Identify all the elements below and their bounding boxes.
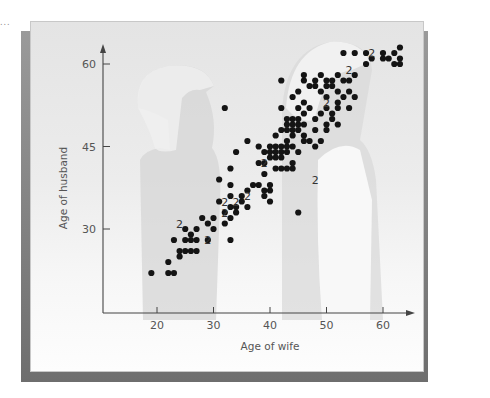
data-point — [171, 237, 177, 243]
data-point — [312, 83, 318, 89]
data-point — [284, 121, 290, 127]
data-point — [188, 231, 194, 237]
data-point — [306, 105, 312, 111]
data-point — [171, 270, 177, 276]
data-point — [193, 248, 199, 254]
data-point — [318, 138, 324, 144]
data-point — [290, 127, 296, 133]
data-point — [284, 143, 290, 149]
data-point — [397, 55, 403, 61]
data-point — [205, 220, 211, 226]
data-point — [352, 50, 358, 56]
data-point — [346, 88, 352, 94]
data-point — [267, 182, 273, 188]
silhouette-background — [138, 42, 383, 320]
data-point — [380, 50, 386, 56]
double-count-label: 2 — [176, 218, 183, 231]
data-point — [290, 121, 296, 127]
data-point — [290, 94, 296, 100]
data-point — [301, 110, 307, 116]
data-point — [346, 105, 352, 111]
data-point — [301, 138, 307, 144]
data-point — [256, 143, 262, 149]
data-point — [295, 149, 301, 155]
data-point — [273, 143, 279, 149]
data-point — [188, 248, 194, 254]
data-point — [261, 193, 267, 199]
data-point — [301, 99, 307, 105]
data-point — [346, 77, 352, 83]
data-point — [278, 105, 284, 111]
data-point — [312, 77, 318, 83]
data-point — [188, 237, 194, 243]
x-tick-label: 40 — [263, 319, 277, 332]
data-point — [227, 182, 233, 188]
data-point — [329, 110, 335, 116]
data-point — [284, 127, 290, 133]
data-point — [323, 77, 329, 83]
scatter-plot: 2030405060 304560 22222222222 Age of wif… — [0, 0, 490, 398]
data-point — [177, 248, 183, 254]
data-point — [273, 132, 279, 138]
data-point — [340, 77, 346, 83]
data-point — [278, 77, 284, 83]
data-point — [306, 138, 312, 144]
data-point — [323, 127, 329, 133]
data-point — [290, 143, 296, 149]
data-point — [165, 259, 171, 265]
data-point — [165, 270, 171, 276]
data-point — [301, 77, 307, 83]
data-point — [290, 165, 296, 171]
data-point — [227, 165, 233, 171]
data-point — [261, 187, 267, 193]
data-point — [352, 94, 358, 100]
data-point — [216, 176, 222, 182]
data-point — [273, 149, 279, 155]
data-point — [250, 182, 256, 188]
y-tick-label: 60 — [82, 58, 96, 71]
data-point — [210, 226, 216, 232]
data-point — [177, 253, 183, 259]
y-ticks: 304560 — [82, 58, 110, 236]
double-count-label: 2 — [312, 174, 319, 187]
data-point — [340, 94, 346, 100]
data-point — [148, 270, 154, 276]
data-point — [267, 149, 273, 155]
data-point — [278, 149, 284, 155]
data-point — [273, 154, 279, 160]
data-point — [318, 88, 324, 94]
data-point — [261, 171, 267, 177]
y-tick-label: 30 — [82, 223, 96, 236]
data-point — [267, 198, 273, 204]
data-point — [193, 226, 199, 232]
data-point — [318, 72, 324, 78]
double-count-label: 2 — [346, 64, 353, 77]
data-point — [261, 149, 267, 155]
double-count-label: 2 — [261, 157, 268, 170]
data-point — [323, 83, 329, 89]
data-point — [284, 138, 290, 144]
x-tick-label: 60 — [376, 319, 390, 332]
y-axis-arrow-icon — [100, 44, 106, 53]
data-point — [295, 88, 301, 94]
data-point — [233, 209, 239, 215]
data-point — [295, 105, 301, 111]
data-point — [312, 143, 318, 149]
double-count-label: 2 — [323, 97, 330, 110]
double-count-label: 2 — [368, 47, 375, 60]
data-point — [335, 99, 341, 105]
data-point — [301, 72, 307, 78]
data-point — [193, 237, 199, 243]
double-count-label: 2 — [221, 207, 228, 220]
data-point — [290, 132, 296, 138]
data-point — [329, 83, 335, 89]
data-point — [278, 143, 284, 149]
data-point — [199, 215, 205, 221]
y-axis-title: Age of husband — [57, 147, 69, 229]
y-tick-label: 45 — [82, 141, 96, 154]
data-point — [335, 105, 341, 111]
data-point — [301, 132, 307, 138]
data-point — [244, 204, 250, 210]
data-point — [182, 237, 188, 243]
data-point — [306, 83, 312, 89]
